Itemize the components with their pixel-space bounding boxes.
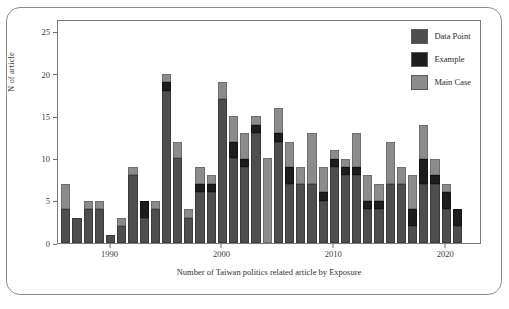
bar[interactable] (352, 133, 361, 243)
bar-segment (72, 218, 81, 243)
bar-segment (184, 209, 193, 217)
bar[interactable] (419, 125, 428, 243)
bar-segment (352, 167, 361, 175)
bar[interactable] (140, 201, 149, 243)
bar-segment (374, 201, 383, 209)
bar-segment (128, 175, 137, 243)
bar-segment (274, 133, 283, 141)
legend-item[interactable]: Main Case (411, 75, 471, 90)
bar-segment (84, 209, 93, 243)
bar-segment (117, 218, 126, 226)
x-axis-tick-mark (445, 244, 446, 248)
x-axis-title: Number of Taiwan politics related articl… (57, 267, 481, 277)
bar-segment (240, 159, 249, 167)
bar-segment (374, 209, 383, 243)
bar-segment (274, 142, 283, 243)
x-axis-tick: 2020 (437, 244, 454, 259)
bar-segment (229, 158, 238, 243)
bar[interactable] (430, 159, 439, 243)
bar-segment (330, 159, 339, 167)
bar-segment (341, 175, 350, 243)
bar-segment (363, 175, 372, 200)
bar[interactable] (106, 235, 115, 243)
bar[interactable] (72, 218, 81, 243)
bar-segment (363, 201, 372, 209)
bar-segment (386, 184, 395, 243)
bar-segment (184, 218, 193, 243)
bar[interactable] (319, 167, 328, 243)
bar-segment (285, 167, 294, 184)
bar[interactable] (341, 159, 350, 243)
bar-segment (195, 167, 204, 184)
bar-segment (229, 116, 238, 141)
bar[interactable] (117, 218, 126, 243)
bar[interactable] (218, 82, 227, 243)
bar-segment (330, 167, 339, 243)
bar-segment (285, 142, 294, 167)
bar[interactable] (229, 116, 238, 243)
bar[interactable] (173, 142, 182, 243)
y-axis-tick-label: 15 (42, 113, 54, 122)
bar[interactable] (330, 150, 339, 243)
bar-segment (430, 184, 439, 243)
bar-segment (140, 218, 149, 243)
bar-segment (386, 142, 395, 184)
bar[interactable] (151, 201, 160, 243)
bar[interactable] (408, 175, 417, 243)
legend-label: Example (434, 55, 464, 64)
bar-segment (140, 201, 149, 218)
bar-segment (374, 184, 383, 201)
bar-segment (95, 201, 104, 209)
bar-segment (397, 184, 406, 243)
bar-segment (319, 167, 328, 192)
bar[interactable] (363, 175, 372, 243)
bar[interactable] (95, 201, 104, 243)
bar[interactable] (296, 167, 305, 243)
bar[interactable] (285, 142, 294, 243)
chart-legend: Data PointExampleMain Case (411, 29, 471, 90)
bar-segment (218, 99, 227, 243)
bar-segment (296, 184, 305, 243)
legend-item[interactable]: Data Point (411, 29, 471, 44)
bar-segment (151, 209, 160, 243)
bar-segment (240, 167, 249, 243)
y-axis-tick-label: 0 (46, 240, 53, 249)
bar[interactable] (453, 209, 462, 243)
bar[interactable] (251, 116, 260, 243)
bar[interactable] (128, 167, 137, 243)
bar[interactable] (263, 158, 272, 243)
bar-segment (251, 125, 260, 133)
bar-segment (296, 167, 305, 184)
bar-segment (84, 201, 93, 209)
bar[interactable] (397, 167, 406, 243)
bar-segment (240, 133, 249, 158)
bar-segment (408, 226, 417, 243)
bar[interactable] (386, 142, 395, 243)
bar[interactable] (84, 201, 93, 243)
legend-item[interactable]: Example (411, 52, 471, 67)
bar[interactable] (240, 133, 249, 243)
bar-segment (341, 159, 350, 167)
bar[interactable] (195, 167, 204, 243)
plot-panel: Data PointExampleMain Case (57, 20, 481, 244)
bar[interactable] (207, 175, 216, 243)
x-axis-ticks: 1990200020102020 (57, 244, 481, 264)
bar-segment (442, 184, 451, 192)
bar-segment (307, 133, 316, 184)
bar-segment (285, 184, 294, 243)
bar-segment (419, 184, 428, 243)
y-axis-ticks: 0510152025 (0, 0, 57, 264)
bar[interactable] (184, 209, 193, 243)
bar-segment (419, 125, 428, 159)
x-axis-tick: 2010 (325, 244, 342, 259)
bar[interactable] (442, 184, 451, 243)
legend-swatch (411, 29, 428, 44)
bar[interactable] (307, 133, 316, 243)
bar[interactable] (61, 184, 70, 243)
bar[interactable] (274, 108, 283, 243)
bar[interactable] (374, 184, 383, 243)
bar-segment (352, 175, 361, 243)
bar[interactable] (162, 74, 171, 243)
bar-segment (195, 192, 204, 243)
legend-label: Data Point (434, 32, 470, 41)
